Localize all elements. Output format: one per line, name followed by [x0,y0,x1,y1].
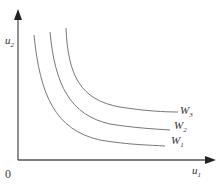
x-axis-arrow-icon [205,156,216,164]
curve-label-w2: W2 [174,119,187,134]
curve-label-w1: W1 [171,134,184,149]
origin-label: 0 [5,167,11,181]
y-axis-label: u2 [5,34,15,49]
x-axis-label: u1 [192,164,201,179]
curve-label-w3: W3 [180,104,193,119]
diagram-canvas: u2 u1 0 W3 W2 W1 [0,0,224,185]
curve-w3 [66,28,178,112]
y-axis-arrow-icon [14,9,22,20]
curve-w1 [34,35,165,146]
